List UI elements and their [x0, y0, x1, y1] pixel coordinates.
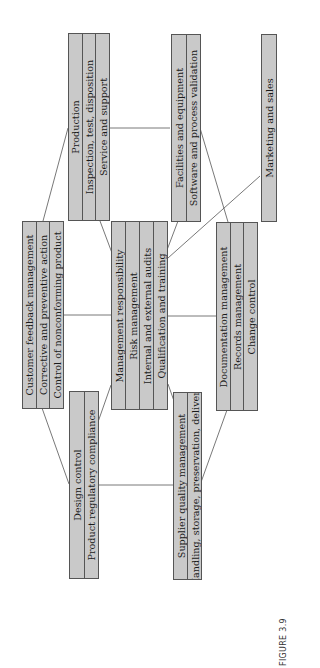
- cell-marketing: Marketing and sales: [262, 35, 276, 221]
- cell-regulatory: Product regulatory compliance: [84, 392, 99, 578]
- box-supplier: Supplier quality management Handling, st…: [173, 392, 202, 580]
- cell-service: Service and support: [95, 34, 109, 220]
- box-facilities: Facilities and equipment Software and pr…: [171, 34, 201, 222]
- connector-documentation-supplier: [200, 410, 227, 485]
- cell-design-control: Design control: [70, 392, 84, 578]
- cell-management-responsibility: Management responsibility: [112, 222, 125, 409]
- connector-customer-design: [42, 408, 69, 484]
- cell-nonconforming: Control of nonconforming product: [49, 222, 63, 408]
- box-marketing: Marketing and sales: [261, 34, 277, 222]
- box-production: Production Inspection, test, disposition…: [68, 33, 110, 221]
- cell-documentation: Documentation management: [217, 223, 230, 410]
- cell-facilities: Facilities and equipment: [172, 35, 186, 221]
- box-design: Design control Product regulatory compli…: [69, 391, 99, 579]
- cell-handling: Handling, storage, preservation, deliver…: [187, 393, 201, 579]
- cell-audits: Internal and external audits: [139, 222, 153, 409]
- cell-supplier-quality: Supplier quality management: [174, 393, 187, 579]
- connector-management-design: [98, 385, 111, 422]
- box-customer: Customer feedback management Corrective …: [22, 221, 64, 409]
- cell-capa: Corrective and preventive action: [36, 222, 50, 408]
- cell-qualification: Qualification and training: [153, 222, 167, 409]
- cell-inspection: Inspection, test, disposition: [82, 34, 96, 220]
- cell-software-validation: Software and process validation: [186, 35, 201, 221]
- cell-customer-feedback: Customer feedback management: [23, 222, 36, 408]
- connector-production-customer: [43, 128, 68, 221]
- cell-risk-management: Risk management: [125, 222, 139, 409]
- cell-records: Records management: [230, 223, 244, 410]
- figure-caption: FIGURE 3.9: [276, 622, 290, 662]
- cell-change-control: Change control: [243, 223, 257, 410]
- box-management: Management responsibility Risk managemen…: [111, 221, 168, 410]
- connector-facilities-management: [167, 221, 178, 250]
- cell-production: Production: [69, 34, 82, 220]
- box-documentation: Documentation management Records managem…: [216, 222, 258, 411]
